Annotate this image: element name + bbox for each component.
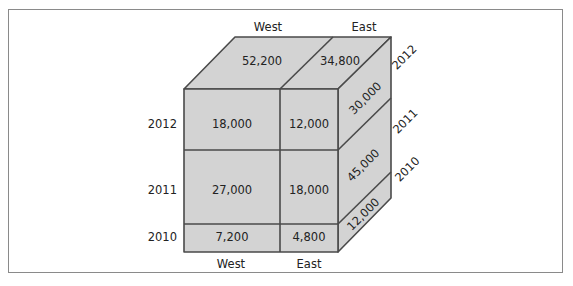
left-label-2011: 2011 xyxy=(148,183,177,197)
cell-2012-west: 18,000 xyxy=(212,117,252,131)
bottom-label-west: West xyxy=(217,257,246,271)
cell-2010-west: 7,200 xyxy=(216,230,249,244)
cube-front-face xyxy=(184,89,338,252)
side-label-2011: 2011 xyxy=(390,106,421,137)
data-cube-diagram: West East West East 2012 2011 2010 2012 … xyxy=(0,0,573,286)
top-label-east: East xyxy=(352,20,377,34)
bottom-label-east: East xyxy=(297,257,322,271)
top-total-east: 34,800 xyxy=(320,54,360,68)
cell-2010-east: 4,800 xyxy=(293,230,326,244)
side-label-2010: 2010 xyxy=(392,154,423,185)
cell-2011-west: 27,000 xyxy=(212,183,252,197)
side-label-2012: 2012 xyxy=(389,42,420,73)
left-label-2010: 2010 xyxy=(148,230,177,244)
top-total-west: 52,200 xyxy=(242,54,282,68)
left-label-2012: 2012 xyxy=(148,117,177,131)
cell-2011-east: 18,000 xyxy=(289,183,329,197)
top-label-west: West xyxy=(254,20,283,34)
cell-2012-east: 12,000 xyxy=(289,117,329,131)
